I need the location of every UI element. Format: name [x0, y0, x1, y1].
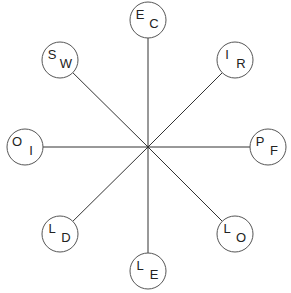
node-letter-upper: L	[48, 221, 55, 236]
node-letter-lower: R	[236, 56, 245, 71]
node-letter-lower: C	[149, 16, 158, 31]
node-top: EC	[130, 2, 166, 38]
node-letter-lower: I	[29, 143, 33, 158]
node-letter-lower: E	[150, 267, 159, 282]
node-letter-upper: S	[48, 47, 57, 62]
node-letter-upper: I	[225, 47, 229, 62]
node-circle	[217, 42, 253, 78]
node-left: OI	[7, 129, 43, 165]
node-bottom: LE	[130, 253, 166, 289]
node-letter-upper: O	[12, 134, 22, 149]
node-letter-lower: W	[60, 56, 73, 71]
node-letter-lower: D	[61, 230, 70, 245]
center-hub	[147, 146, 149, 148]
node-letter-lower: O	[236, 230, 246, 245]
node-top-left: SW	[42, 42, 78, 78]
node-letter-upper: E	[136, 7, 145, 22]
node-bottom-left: LD	[42, 216, 78, 252]
radial-diagram: ECIRPFLOLELDOISW	[0, 0, 291, 293]
node-top-right: IR	[217, 42, 253, 78]
node-bottom-right: LO	[217, 216, 253, 252]
node-letter-lower: F	[270, 143, 278, 158]
node-right: PF	[250, 129, 286, 165]
node-letter-upper: L	[223, 221, 230, 236]
node-letter-upper: P	[256, 134, 265, 149]
spoke-line-top-right	[148, 73, 222, 147]
spoke-line-top-left	[73, 73, 148, 147]
spoke-line-bottom-left	[73, 147, 148, 221]
node-letter-upper: L	[136, 258, 143, 273]
spoke-line-bottom-right	[148, 147, 222, 221]
